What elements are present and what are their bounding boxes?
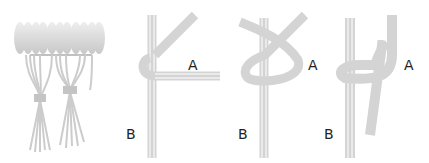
panel-step-3: A B xyxy=(320,0,429,163)
panel-step-2: A B xyxy=(220,0,320,163)
panel-finished-fringe xyxy=(0,0,110,163)
label-b: B xyxy=(238,126,248,142)
knot-step-2-illustration xyxy=(220,0,320,163)
knot-step-3-illustration xyxy=(320,0,429,163)
label-a: A xyxy=(308,57,318,73)
fringe-illustration xyxy=(0,0,110,163)
label-b: B xyxy=(324,126,334,142)
label-b: B xyxy=(126,126,136,142)
label-a: A xyxy=(188,57,198,73)
label-a: A xyxy=(404,57,414,73)
panel-step-1: A B xyxy=(110,0,220,163)
